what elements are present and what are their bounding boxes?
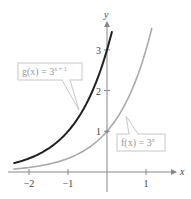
y-tick-label: 2 — [96, 86, 101, 97]
y-tick-label: 3 — [96, 45, 101, 56]
x-tick-label: −2 — [24, 178, 35, 189]
x-tick-label: −1 — [63, 178, 74, 189]
callout-f: f(x) = 3x — [117, 116, 165, 151]
svg-text:f(x) = 3x: f(x) = 3x — [121, 137, 155, 149]
callout-g-sup: x + 1 — [54, 66, 66, 72]
y-tick-label: 1 — [96, 126, 101, 137]
y-axis-label: y — [103, 9, 109, 20]
x-tick-label: 1 — [144, 178, 149, 189]
x-axis-label: x — [179, 166, 185, 177]
point-0-1 — [106, 130, 109, 133]
callout-g: g(x) = 3x + 1 — [18, 63, 82, 110]
callout-f-main: f(x) = 3 — [121, 137, 152, 149]
exponential-functions-chart: x y −2−11 123 g(x) = 3x + 1 f(x) = 3x — [0, 0, 191, 199]
callout-f-sup: x — [152, 137, 155, 143]
callout-g-main: g(x) = 3 — [22, 66, 54, 78]
y-ticks: 123 — [96, 45, 110, 137]
